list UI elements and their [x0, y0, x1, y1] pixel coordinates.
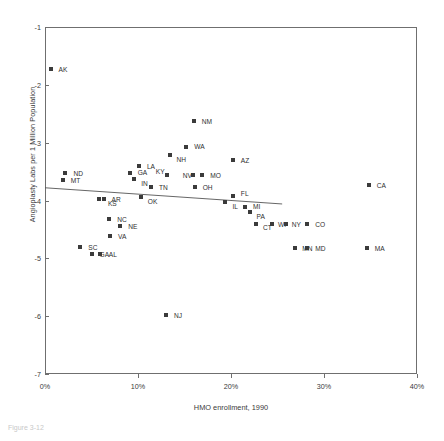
data-point — [248, 210, 252, 214]
data-point-label: NC — [117, 216, 127, 223]
data-point-label: GA — [138, 168, 148, 175]
data-point — [365, 246, 369, 250]
y-tick-mark — [45, 316, 49, 317]
data-point — [231, 158, 235, 162]
data-point-label: MI — [253, 203, 260, 210]
figure-caption: Figure 3-12 — [8, 424, 44, 431]
data-point — [367, 183, 371, 187]
data-point-label: MT — [71, 176, 81, 183]
data-point — [200, 173, 204, 177]
data-point — [293, 246, 297, 250]
data-point — [223, 200, 227, 204]
x-axis-title: HMO enrollment, 1990 — [45, 403, 417, 412]
data-point-label: MD — [315, 244, 325, 251]
data-point-label: PA — [257, 213, 265, 220]
y-tick-mark — [45, 258, 49, 259]
data-point — [107, 217, 111, 221]
data-point-label: NV — [183, 172, 192, 179]
y-tick-mark — [45, 85, 49, 86]
data-point — [231, 194, 235, 198]
data-point — [108, 234, 112, 238]
data-point-label: OH — [203, 184, 213, 191]
y-tick-label: -4 — [35, 196, 41, 205]
data-point-label: VA — [118, 233, 126, 240]
data-point — [193, 185, 197, 189]
data-point — [63, 171, 67, 175]
x-tick-mark — [138, 374, 139, 378]
data-point-label: IL — [232, 202, 238, 209]
data-point-label: OK — [148, 198, 158, 205]
data-point — [165, 173, 169, 177]
data-point-label: NH — [177, 156, 187, 163]
data-point — [139, 195, 143, 199]
data-point — [61, 178, 65, 182]
data-point — [98, 252, 102, 256]
data-point-label: FL — [241, 189, 249, 196]
data-point — [149, 185, 153, 189]
data-point-label: SC — [88, 243, 97, 250]
y-tick-label: -2 — [35, 80, 41, 89]
data-point-label: NM — [202, 117, 212, 124]
y-tick-label: -7 — [35, 370, 41, 379]
y-tick-mark — [45, 143, 49, 144]
x-tick-mark — [324, 374, 325, 378]
data-point — [128, 171, 132, 175]
data-point-label: CO — [315, 220, 325, 227]
data-point-label: MO — [210, 172, 221, 179]
data-point-label: NE — [128, 222, 137, 229]
data-point-label: NY — [292, 220, 301, 227]
data-point — [97, 197, 101, 201]
data-point — [118, 224, 122, 228]
data-point — [184, 145, 188, 149]
data-point-label: NJ — [174, 312, 182, 319]
data-point-label: CA — [377, 182, 386, 189]
data-point-label: AK — [59, 65, 68, 72]
data-point — [305, 222, 309, 226]
x-tick-label: 0% — [40, 382, 50, 391]
y-tick-label: -3 — [35, 138, 41, 147]
y-tick-label: -5 — [35, 254, 41, 263]
y-tick-mark — [45, 27, 49, 28]
y-axis-title: Angioplasty Labs per 1 Million Populatio… — [28, 25, 37, 285]
data-point — [132, 177, 136, 181]
data-point — [102, 197, 106, 201]
data-point — [78, 245, 82, 249]
data-point-label: ND — [73, 169, 83, 176]
data-point — [254, 222, 258, 226]
x-tick-mark — [231, 374, 232, 378]
data-point — [284, 222, 288, 226]
y-tick-mark — [45, 201, 49, 202]
data-point — [243, 205, 247, 209]
y-tick-label: -6 — [35, 312, 41, 321]
y-tick-mark — [45, 374, 49, 375]
data-point — [49, 67, 53, 71]
y-tick-label: -1 — [35, 23, 41, 32]
data-point-label: MA — [375, 244, 385, 251]
data-point-label: AL — [109, 250, 117, 257]
data-point-label: AZ — [241, 157, 249, 164]
x-tick-mark — [417, 374, 418, 378]
data-point — [168, 153, 172, 157]
x-tick-label: 10% — [131, 382, 145, 391]
x-tick-label: 20% — [224, 382, 238, 391]
data-point — [90, 252, 94, 256]
scatter-chart-figure: Angioplasty Labs per 1 Million Populatio… — [0, 0, 444, 441]
data-point-label: KY — [156, 168, 165, 175]
data-point-label: TN — [159, 184, 168, 191]
data-point — [164, 313, 168, 317]
data-point-label: IN — [141, 179, 148, 186]
data-point — [270, 222, 274, 226]
x-tick-label: 40% — [410, 382, 424, 391]
data-point-label: KS — [108, 200, 117, 207]
data-point-label: WA — [194, 143, 204, 150]
x-tick-label: 30% — [317, 382, 331, 391]
data-point-label: LA — [147, 162, 155, 169]
data-point — [192, 119, 196, 123]
data-point — [137, 164, 141, 168]
data-point — [305, 246, 309, 250]
